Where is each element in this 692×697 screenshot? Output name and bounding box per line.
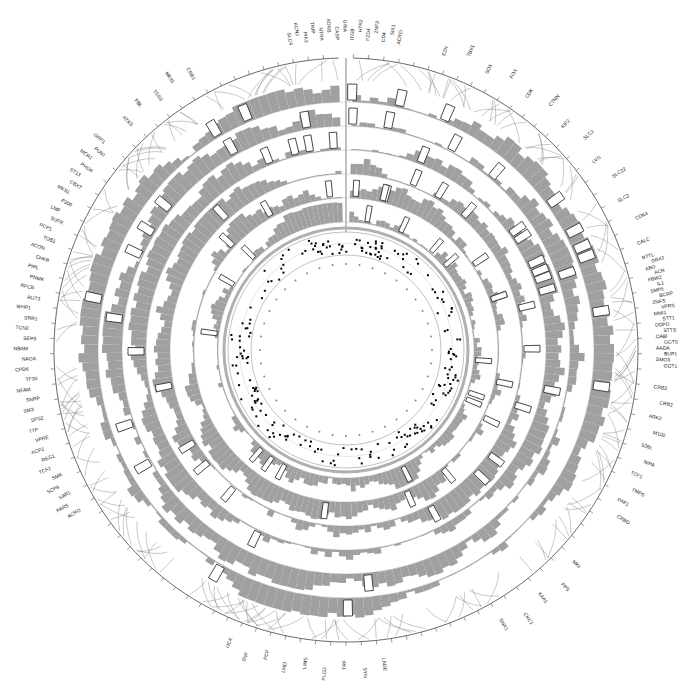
gene-label: ACON <box>30 241 46 251</box>
gene-label: CALC <box>636 236 651 246</box>
gene-label: TOB1 <box>42 234 56 244</box>
gene-label: NBAM <box>14 345 28 351</box>
gene-label: SIX1 <box>389 24 397 36</box>
gene-label: SNRP <box>26 395 41 403</box>
gene-label: MKS1 <box>56 183 71 195</box>
gene-label: PPS <box>560 581 572 593</box>
gene-label: TCF2 <box>38 465 52 475</box>
gene-label: SAR1 <box>57 489 72 500</box>
gene-label: ACRO <box>395 30 403 45</box>
gene-label: SEP3 <box>23 335 36 341</box>
gene-label: GRP1 <box>93 131 107 145</box>
gene-label: MKI <box>571 559 582 569</box>
gene-label: PNMK <box>29 273 45 282</box>
gene-label: M100 <box>652 429 666 438</box>
gene-label: REG1 <box>41 453 56 463</box>
gene-label: S26L <box>640 441 653 450</box>
gene-label: LMF <box>50 203 62 213</box>
gene-label: CD4 <box>380 32 387 43</box>
circular-genome-chart: SLC4KCNJPIK3TIMPNTRKADRBCASPGRIAITGBHTR2… <box>0 0 692 697</box>
gene-label: ADRB <box>326 18 333 33</box>
gene-label: NFAM <box>16 386 31 394</box>
gene-label: TCN2 <box>16 324 30 331</box>
gene-label: SNX1 <box>498 617 510 632</box>
gene-label: SLC4 <box>286 32 294 46</box>
gene-label: HTR2 <box>357 19 364 33</box>
gene-label: SLC22 <box>611 166 627 179</box>
gene-label: CRB3 <box>653 383 667 391</box>
gene-label: CDK4 <box>634 210 649 221</box>
gene-label: TRF <box>341 660 347 670</box>
gene-label: TCF1 <box>630 469 644 480</box>
gene-label: TSSS <box>152 88 165 103</box>
gene-label: ARK2 <box>648 413 662 422</box>
gene-label: VPRE <box>34 434 49 444</box>
gene-label: NTRK <box>318 27 325 42</box>
gene-label: ATXS <box>121 114 135 128</box>
gene-label: EZH <box>440 45 449 57</box>
gene-label: MEIG <box>164 70 176 84</box>
gene-label: LVI1 <box>591 153 603 164</box>
gene-label: CRB2 <box>659 399 673 407</box>
gene-label: GRIA <box>342 20 348 33</box>
gene-label: TBX1 <box>465 43 475 57</box>
gene-label: PAF1 <box>617 496 631 507</box>
gene-label: PCP1 <box>39 221 54 232</box>
gene-label: GGT1 <box>663 362 677 369</box>
gene-label: ACRO <box>66 507 82 520</box>
gene-label: WHP1 <box>16 303 31 311</box>
gene-label: CPD6 <box>15 366 29 373</box>
gene-label: KAA1 <box>537 591 550 605</box>
gene-label: PLCD <box>320 667 327 681</box>
gene-label: CASP <box>334 26 340 40</box>
gene-label: TIMP <box>309 21 316 34</box>
gene-label: PU60 <box>93 145 107 158</box>
bar-rings <box>78 58 614 618</box>
gene-label: CDK <box>523 87 534 100</box>
gene-label: SM3 <box>23 406 34 414</box>
gene-label: SCP8 <box>46 484 61 495</box>
gene-label: ZNF3 <box>373 20 380 33</box>
gene-label: MCR1 <box>79 148 94 161</box>
gene-label: CHKB <box>35 253 51 263</box>
gene-label: CTNN <box>547 93 561 108</box>
gene-label: SRR1 <box>24 314 38 321</box>
gene-label: SMA <box>51 471 64 481</box>
gene-label: LAGE <box>381 657 389 672</box>
gene-label: SLC2 <box>616 192 630 203</box>
gene-label: NAGA <box>22 355 37 361</box>
gene-label: TF30 <box>25 375 37 382</box>
gene-label: CRB1 <box>185 66 197 81</box>
gene-label: SPS2 <box>30 414 44 423</box>
gene-label: PIPL <box>28 262 40 271</box>
gene-label: SUFR <box>50 215 65 226</box>
gene-label: PCP <box>262 648 271 660</box>
gene-label: CRBD <box>616 513 632 526</box>
gene-label: KIF2 <box>559 117 571 129</box>
gene-label: RUT3 <box>27 294 41 302</box>
gene-label: ACP2 <box>30 446 44 456</box>
gene-label: PARS <box>55 502 70 514</box>
gene-label: ITGB <box>349 28 355 40</box>
gene-label: PIK3 <box>302 31 309 43</box>
gene-label: LMO <box>280 661 288 673</box>
gene-label: SNF <box>240 651 249 662</box>
gene-label: KCNJ <box>293 22 301 36</box>
gene-label: NIPA <box>643 458 656 468</box>
inner-tick-marks <box>259 263 433 437</box>
gene-label: FZD4 <box>364 28 371 41</box>
gene-label: CKC1 <box>523 611 536 626</box>
gene-label: SLC2 <box>582 128 596 141</box>
gene-label: TTP <box>28 426 39 434</box>
gene-label: P300 <box>60 197 73 208</box>
gene-label: FBL <box>133 97 144 108</box>
gene-label: SOX <box>483 62 493 75</box>
gene-label: RPCB <box>20 282 35 291</box>
gene-label: UCK <box>224 636 234 649</box>
gene-label: LIMS <box>301 656 309 669</box>
gene-label: SYN <box>362 667 369 678</box>
gene-label: FOX <box>508 67 519 79</box>
gene-label: TMPS <box>631 486 647 498</box>
gene-label: ST13 <box>69 166 82 178</box>
